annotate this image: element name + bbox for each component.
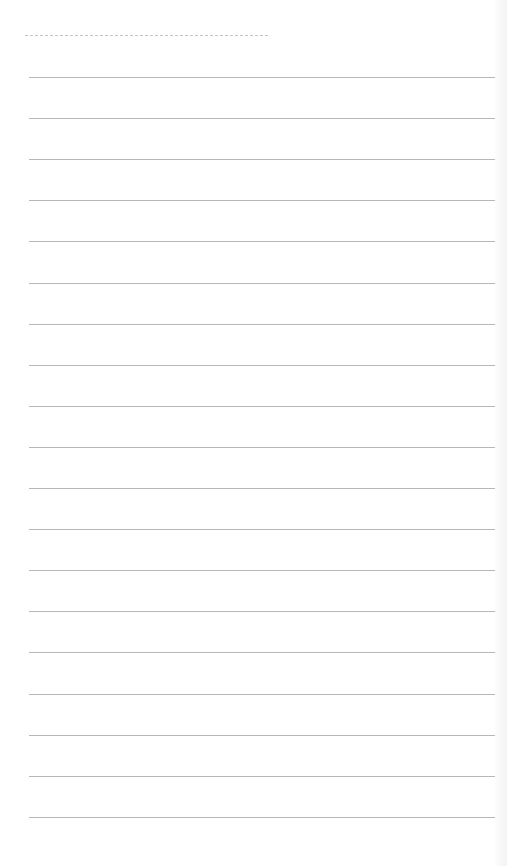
ruled-line [29, 283, 495, 284]
ruled-line [29, 241, 495, 242]
ruled-line [29, 200, 495, 201]
ruled-line [29, 776, 495, 777]
ruled-line [29, 365, 495, 366]
ruled-line [29, 735, 495, 736]
ruled-line [29, 118, 495, 119]
ruled-line [29, 406, 495, 407]
ruled-line [29, 77, 495, 78]
notebook-page [0, 0, 507, 866]
ruled-line [29, 611, 495, 612]
ruled-line [29, 529, 495, 530]
ruled-lines [0, 0, 507, 866]
ruled-line [29, 324, 495, 325]
ruled-line [29, 694, 495, 695]
ruled-line [29, 652, 495, 653]
ruled-line [29, 159, 495, 160]
ruled-line [29, 817, 495, 818]
ruled-line [29, 570, 495, 571]
ruled-line [29, 447, 495, 448]
ruled-line [29, 488, 495, 489]
